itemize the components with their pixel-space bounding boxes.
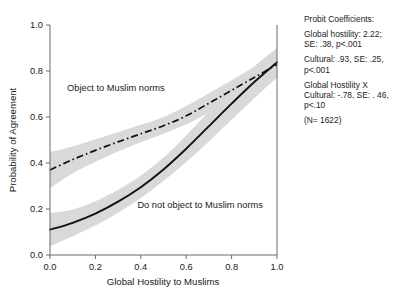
y-tick-label: 0.6 bbox=[30, 112, 43, 122]
y-tick-label: 1.0 bbox=[30, 20, 43, 30]
x-axis-title: Global Hostility to Muslims bbox=[107, 276, 220, 287]
annotation-do-not-object-to-muslim-norms: Do not object to Muslim norms bbox=[137, 200, 263, 210]
x-tick-label: 0.8 bbox=[225, 262, 238, 272]
probability-of-agreement-line-chart: 0.00.20.40.60.81.0 0.00.20.40.60.81.0 Pr… bbox=[0, 0, 290, 295]
annotation-object-to-muslim-norms: Object to Muslim norms bbox=[67, 83, 165, 93]
x-tick-label: 1.0 bbox=[271, 262, 284, 272]
x-tick-label: 0.4 bbox=[134, 262, 147, 272]
y-tick-label: 0.2 bbox=[30, 204, 43, 214]
y-axis-tick-labels: 0.00.20.40.60.81.0 bbox=[30, 20, 43, 260]
x-tick-label: 0.0 bbox=[44, 262, 57, 272]
y-tick-label: 0.8 bbox=[30, 66, 43, 76]
x-tick-label: 0.6 bbox=[180, 262, 193, 272]
probit-coefficients-panel: Probit Coefficients: Global hostility: 2… bbox=[304, 14, 420, 126]
figure-container: 0.00.20.40.60.81.0 0.00.20.40.60.81.0 Pr… bbox=[0, 0, 420, 295]
stats-line-global-hostility: Global hostility: 2.22; SE: .38, p<.001 bbox=[304, 29, 420, 50]
chart-plot-region: 0.00.20.40.60.81.0 0.00.20.40.60.81.0 Pr… bbox=[0, 0, 290, 295]
x-tick-label: 0.2 bbox=[89, 262, 102, 272]
stats-line-cultural: Cultural: .93, SE: .25, p<.001 bbox=[304, 54, 420, 75]
x-axis-tick-labels: 0.00.20.40.60.81.0 bbox=[44, 262, 284, 272]
y-tick-label: 0.0 bbox=[30, 250, 43, 260]
stats-line-interaction: Global Hostility X Cultural: -.78, SE: .… bbox=[304, 80, 420, 111]
y-tick-label: 0.4 bbox=[30, 158, 43, 168]
stats-line-sample-size: (N= 1622) bbox=[304, 115, 420, 125]
y-axis-title: Probability of Agreement bbox=[7, 87, 18, 192]
y-axis-ticks bbox=[46, 25, 50, 255]
x-axis-ticks bbox=[50, 255, 277, 259]
stats-heading: Probit Coefficients: bbox=[304, 14, 420, 24]
